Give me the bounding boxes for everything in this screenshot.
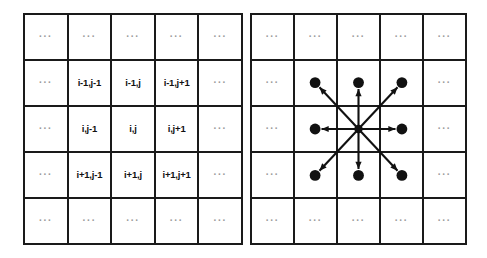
cell-index-label: i+1,j <box>124 170 142 180</box>
grid-cell <box>338 107 381 153</box>
grid-cell: ··· <box>252 199 295 245</box>
cell-ellipsis: ··· <box>39 124 53 135</box>
cell-ellipsis: ··· <box>213 216 227 227</box>
grid-cell: ··· <box>338 199 381 245</box>
grid-cell: ··· <box>25 107 69 153</box>
cell-ellipsis: ··· <box>83 32 97 43</box>
grid-cell: ··· <box>199 153 243 199</box>
grid-cell: i+1,j-1 <box>69 153 113 199</box>
grid-cell: i,j+1 <box>156 107 200 153</box>
cell-ellipsis: ··· <box>395 216 409 227</box>
grid-cell: ··· <box>424 61 467 107</box>
grid-cell: ··· <box>112 199 156 245</box>
grid-cell: ··· <box>25 61 69 107</box>
index-grid: ··················i-1,j-1i-1,ji-1,j+1···… <box>23 13 243 245</box>
grid-cell: i-1,j-1 <box>69 61 113 107</box>
grid-cell: i-1,j <box>112 61 156 107</box>
grid-cell <box>295 107 338 153</box>
grid-cell: ··· <box>25 153 69 199</box>
grid-cell: i,j <box>112 107 156 153</box>
cell-ellipsis: ··· <box>266 32 280 43</box>
grid-cell: ··· <box>199 15 243 61</box>
grid-cell: ··· <box>199 199 243 245</box>
cell-ellipsis: ··· <box>438 78 452 89</box>
grid-cell: ··· <box>252 107 295 153</box>
cell-ellipsis: ··· <box>266 216 280 227</box>
grid-cell <box>381 61 424 107</box>
grid-cell <box>381 153 424 199</box>
grid-cell: ··· <box>156 199 200 245</box>
cell-ellipsis: ··· <box>309 216 323 227</box>
grid-cell: i,j-1 <box>69 107 113 153</box>
grid-cell: ··· <box>252 15 295 61</box>
grid-cell: ··· <box>424 107 467 153</box>
cell-ellipsis: ··· <box>170 216 184 227</box>
grid-cell: i+1,j <box>112 153 156 199</box>
cell-index-label: i-1,j+1 <box>164 78 190 88</box>
cell-ellipsis: ··· <box>39 170 53 181</box>
neighborhood-grid: ········································… <box>250 13 467 245</box>
cell-ellipsis: ··· <box>266 170 280 181</box>
grid-cell <box>338 61 381 107</box>
cell-ellipsis: ··· <box>352 216 366 227</box>
cell-index-label: i+1,j-1 <box>76 170 102 180</box>
cell-index-label: i-1,j-1 <box>78 78 101 88</box>
grid-cell: ··· <box>25 199 69 245</box>
grid-cell: i-1,j+1 <box>156 61 200 107</box>
cell-ellipsis: ··· <box>170 32 184 43</box>
cell-index-label: i-1,j <box>125 78 140 88</box>
grid-cell: ··· <box>295 15 338 61</box>
cell-ellipsis: ··· <box>438 124 452 135</box>
cell-ellipsis: ··· <box>395 32 409 43</box>
grid-cell: ··· <box>424 199 467 245</box>
cell-ellipsis: ··· <box>126 216 140 227</box>
grid-cell <box>381 107 424 153</box>
grid-cell <box>338 153 381 199</box>
cell-ellipsis: ··· <box>39 78 53 89</box>
cell-ellipsis: ··· <box>39 216 53 227</box>
grid-cell: i+1,j+1 <box>156 153 200 199</box>
grid-cell: ··· <box>252 153 295 199</box>
cell-ellipsis: ··· <box>213 32 227 43</box>
grid-cell: ··· <box>424 153 467 199</box>
cell-index-label: i+1,j+1 <box>163 170 191 180</box>
cell-ellipsis: ··· <box>438 170 452 181</box>
cell-ellipsis: ··· <box>39 32 53 43</box>
cell-ellipsis: ··· <box>266 78 280 89</box>
cell-ellipsis: ··· <box>309 32 323 43</box>
grid-cell: ··· <box>112 15 156 61</box>
grid-cell: ··· <box>69 15 113 61</box>
cell-ellipsis: ··· <box>438 32 452 43</box>
cell-ellipsis: ··· <box>126 32 140 43</box>
figure-root: ··················i-1,j-1i-1,ji-1,j+1···… <box>0 0 487 258</box>
cell-ellipsis: ··· <box>438 216 452 227</box>
grid-cell: ··· <box>25 15 69 61</box>
grid-cell: ··· <box>295 199 338 245</box>
grid-cell: ··· <box>338 15 381 61</box>
grid-cell: ··· <box>381 15 424 61</box>
grid-cell <box>295 153 338 199</box>
grid-cell: ··· <box>199 107 243 153</box>
cell-index-label: i,j+1 <box>168 124 186 134</box>
grid-cell: ··· <box>381 199 424 245</box>
cell-ellipsis: ··· <box>213 170 227 181</box>
grid-cell: ··· <box>424 15 467 61</box>
grid-cell <box>295 61 338 107</box>
cell-ellipsis: ··· <box>83 216 97 227</box>
cell-index-label: i,j <box>129 124 136 134</box>
cell-index-label: i,j-1 <box>82 124 97 134</box>
grid-cell: ··· <box>69 199 113 245</box>
grid-cell: ··· <box>199 61 243 107</box>
cell-ellipsis: ··· <box>213 78 227 89</box>
cell-ellipsis: ··· <box>352 32 366 43</box>
grid-cell: ··· <box>252 61 295 107</box>
cell-ellipsis: ··· <box>213 124 227 135</box>
cell-ellipsis: ··· <box>266 124 280 135</box>
grid-cell: ··· <box>156 15 200 61</box>
